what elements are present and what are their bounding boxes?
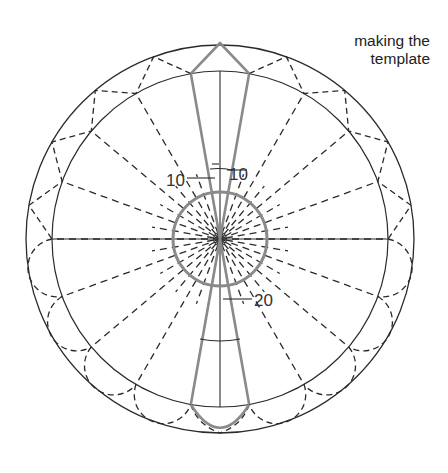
petal-tip-bottom — [191, 404, 249, 427]
hub-dash — [152, 240, 214, 251]
radial-dashed-line — [220, 182, 378, 239]
hub-dash — [226, 227, 288, 238]
scallop-arc — [249, 384, 306, 423]
crown-zigzag — [29, 57, 191, 239]
scallop-arc — [349, 296, 393, 350]
scallop-arc — [84, 347, 136, 395]
scallop-arc — [28, 239, 62, 297]
hub-dash — [226, 240, 288, 251]
radial-dashed-line — [220, 239, 378, 296]
angle-label-right: 10 — [229, 165, 248, 184]
angle-label-bottom: 20 — [254, 291, 273, 310]
hub-dash — [152, 227, 214, 238]
template-diagram: 10 10 20 — [0, 0, 448, 473]
radial-dashed-line — [62, 182, 220, 239]
scallop-arc — [48, 296, 92, 350]
scallop-arc — [304, 347, 356, 395]
petal-tip-top — [191, 43, 249, 74]
scallop-arc — [134, 384, 191, 423]
crown-zigzag — [249, 57, 411, 239]
scallop-arc — [378, 239, 412, 297]
angle-label-left: 10 — [166, 171, 185, 190]
radial-dashed-line — [62, 239, 220, 296]
